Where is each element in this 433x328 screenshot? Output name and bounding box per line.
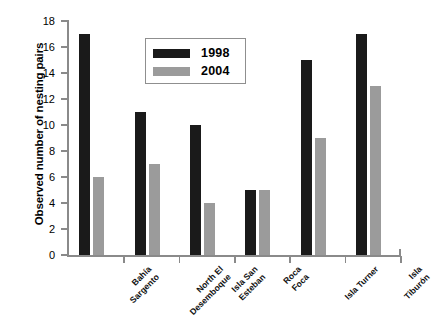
y-axis-tick	[61, 98, 68, 100]
y-axis-tick	[61, 202, 68, 204]
x-axis-label-6: Isla Tiburón	[395, 264, 433, 302]
y-axis-tick-label: 2	[33, 224, 55, 235]
y-axis-tick-label: 18	[33, 16, 55, 27]
y-axis-tick	[61, 72, 68, 74]
y-axis-tick	[61, 254, 68, 256]
x-axis-label-3: Isla San Esteban	[229, 264, 268, 303]
y-axis-tick	[61, 176, 68, 178]
legend-label-1998: 1998	[201, 46, 230, 60]
x-axis-label-1: Bahía Sargento	[120, 264, 162, 306]
y-axis-tick	[61, 228, 68, 230]
x-axis-label-2: North El Desemboque	[180, 264, 234, 318]
y-axis-tick	[61, 124, 68, 126]
bar-2004-6	[370, 86, 381, 255]
y-axis-tick-label: 16	[33, 42, 55, 53]
bar-1998-3	[190, 125, 201, 255]
bar-2004-1	[93, 177, 104, 255]
bar-1998-4	[245, 190, 256, 255]
y-axis-tick-label: 10	[33, 120, 55, 131]
y-axis-tick-label: 12	[33, 94, 55, 105]
y-axis-tick-label: 8	[33, 146, 55, 157]
y-axis-tick-label: 14	[33, 68, 55, 79]
x-axis-tick	[234, 256, 236, 263]
x-axis-tick	[123, 256, 125, 263]
legend-swatch-1998	[153, 49, 190, 58]
bar-2004-3	[204, 203, 215, 255]
x-axis-label-5: Isla Turner	[343, 264, 381, 302]
y-axis-tick-label: 0	[33, 250, 55, 261]
bar-2004-4	[259, 190, 270, 255]
legend-swatch-2004	[153, 67, 190, 76]
legend-label-2004: 2004	[201, 64, 230, 78]
legend-item-2004: 2004	[153, 63, 230, 79]
y-axis-tick	[61, 46, 68, 48]
y-axis-tick-label: 6	[33, 172, 55, 183]
bar-1998-5	[301, 60, 312, 255]
bar-1998-2	[135, 112, 146, 255]
x-axis-label-4: Roca Foca	[281, 264, 311, 294]
legend-item-1998: 1998	[153, 45, 230, 61]
y-axis-tick	[61, 20, 68, 22]
x-axis-tick	[400, 256, 402, 263]
bar-1998-6	[356, 34, 367, 255]
bar-1998-1	[79, 34, 90, 255]
chart-legend: 1998 2004	[145, 38, 246, 84]
x-axis-tick	[345, 256, 347, 263]
y-axis-tick-label: 4	[33, 198, 55, 209]
bar-2004-5	[315, 138, 326, 255]
bar-2004-2	[149, 164, 160, 255]
x-axis-tick	[179, 256, 181, 263]
y-axis-tick	[61, 150, 68, 152]
x-axis-tick	[289, 256, 291, 263]
